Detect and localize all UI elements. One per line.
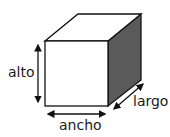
- label-ancho: ancho: [59, 117, 102, 133]
- cube-diagram: alto ancho largo: [0, 0, 170, 137]
- label-alto: alto: [8, 64, 35, 80]
- cube-front-face: [45, 41, 108, 106]
- label-largo: largo: [133, 93, 168, 109]
